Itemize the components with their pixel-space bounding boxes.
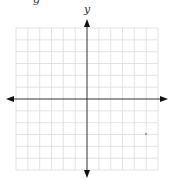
y-axis-up-arrow-icon (84, 19, 90, 27)
partial-top-text: g (33, 0, 40, 6)
x-axis-left-arrow-icon (6, 96, 14, 102)
plotted-point (145, 133, 147, 135)
x-axis-right-arrow-icon (160, 96, 168, 102)
y-axis-label: y (83, 3, 91, 16)
y-axis-down-arrow-icon (84, 170, 90, 178)
coordinate-plane: y g (0, 0, 177, 180)
